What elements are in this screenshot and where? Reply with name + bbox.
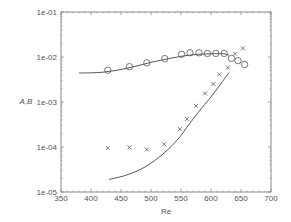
- cross-marker: [211, 82, 215, 86]
- y-tick-label: 1e-01: [37, 8, 58, 17]
- cross-marker: [194, 104, 198, 108]
- circle-marker: [196, 50, 202, 56]
- cross-marker: [178, 127, 182, 131]
- svg-text:Re: Re: [161, 207, 172, 216]
- cross-marker: [203, 91, 207, 95]
- x-tick-label: 600: [204, 194, 218, 203]
- cross-marker: [217, 72, 221, 76]
- cross-marker: [162, 142, 166, 146]
- x-tick-label: 650: [234, 194, 248, 203]
- svg-text:A,B: A,B: [19, 97, 34, 106]
- x-tick-label: 500: [144, 194, 158, 203]
- y-tick-label: 1e-02: [37, 53, 58, 62]
- x-tick-label: 550: [174, 194, 188, 203]
- circle-marker: [235, 57, 241, 63]
- y-axis-title: A,B: [19, 97, 34, 106]
- cross-marker: [185, 117, 189, 121]
- plot-frame: [61, 12, 271, 192]
- x-tick-label: 400: [84, 194, 98, 203]
- x-tick-label: 450: [114, 194, 128, 203]
- fit-curve: [109, 73, 229, 180]
- tick-labels: 3504004505005506006507001e-051e-041e-031…: [37, 8, 279, 203]
- data-markers: [105, 46, 248, 151]
- circle-marker: [126, 63, 132, 69]
- cross-marker: [226, 66, 230, 70]
- x-tick-label: 700: [264, 194, 278, 203]
- cross-marker: [241, 46, 245, 50]
- y-tick-label: 1e-03: [37, 98, 58, 107]
- y-tick-label: 1e-05: [37, 188, 58, 197]
- axis-ticks: [61, 12, 271, 192]
- circle-marker: [228, 55, 234, 61]
- cross-marker: [233, 52, 237, 56]
- chart: A,B Re 3504004505005506006507001e-051e-0…: [0, 0, 291, 222]
- fit-curves: [79, 54, 229, 180]
- cross-marker: [106, 146, 110, 150]
- cross-marker: [145, 147, 149, 151]
- cross-marker: [127, 145, 131, 149]
- x-axis-title: Re: [161, 207, 172, 216]
- circle-marker: [241, 61, 247, 67]
- circle-marker: [105, 67, 111, 73]
- y-tick-label: 1e-04: [37, 143, 58, 152]
